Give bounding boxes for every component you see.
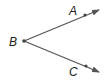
angle-diagram: A B C (0, 0, 105, 80)
label-c: C (69, 65, 78, 79)
point-a (83, 13, 86, 16)
ray-bc (24, 41, 99, 72)
point-c (84, 64, 87, 67)
label-b: B (9, 35, 17, 49)
label-a: A (68, 4, 77, 18)
vertex-point-b (22, 39, 26, 43)
ray-ba (24, 10, 99, 41)
